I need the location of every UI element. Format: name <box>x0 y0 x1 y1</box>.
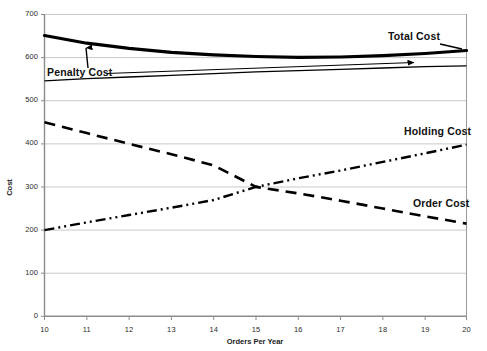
series-label-holding-cost: Holding Cost <box>404 125 471 137</box>
x-tick-14: 14 <box>203 325 225 334</box>
x-tick-11: 11 <box>76 325 98 334</box>
y-tick-600: 600 <box>12 52 38 61</box>
y-tick-100: 100 <box>12 268 38 277</box>
y-tick-400: 400 <box>12 138 38 147</box>
series-label-order-cost: Order Cost <box>413 197 469 209</box>
y-tick-0: 0 <box>12 311 38 320</box>
chart-figure: 700 600 500 400 300 200 100 0 10 11 12 1… <box>0 0 487 351</box>
series-label-total-cost: Total Cost <box>388 30 440 42</box>
y-tick-marks <box>41 15 44 317</box>
x-tick-10: 10 <box>34 325 56 334</box>
plot-background <box>44 14 467 316</box>
y-tick-700: 700 <box>12 9 38 18</box>
x-tick-18: 18 <box>372 325 394 334</box>
y-axis-title: Cost <box>5 168 14 208</box>
chart-plot-svg <box>0 0 487 351</box>
x-tick-19: 19 <box>414 325 436 334</box>
x-tick-15: 15 <box>245 325 267 334</box>
x-tick-16: 16 <box>287 325 309 334</box>
x-tick-17: 17 <box>330 325 352 334</box>
x-tick-20: 20 <box>456 325 478 334</box>
y-tick-500: 500 <box>12 95 38 104</box>
x-axis-title: Orders Per Year <box>205 337 305 346</box>
x-tick-13: 13 <box>160 325 182 334</box>
series-label-penalty-cost: Penalty Cost <box>47 66 112 78</box>
y-tick-200: 200 <box>12 225 38 234</box>
y-tick-300: 300 <box>12 182 38 191</box>
x-tick-12: 12 <box>118 325 140 334</box>
